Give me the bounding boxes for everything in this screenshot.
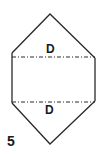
net-diagram-svg: D D 5 [0, 0, 106, 154]
fold-label-bottom: D [45, 103, 54, 117]
fold-label-top: D [46, 42, 55, 56]
figure-number: 5 [7, 133, 15, 149]
net-diagram: D D 5 [0, 0, 106, 154]
